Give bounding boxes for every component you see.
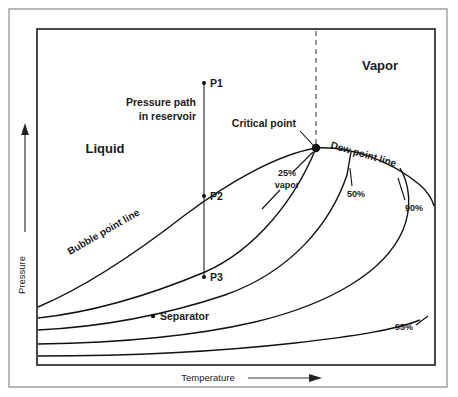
arrow-up-icon: [21, 123, 29, 135]
quality-label-90: 90%: [405, 203, 423, 213]
quality-90-leader: [398, 178, 405, 200]
region-label-vapor: Vapor: [362, 58, 398, 73]
region-label-liquid: Liquid: [86, 141, 125, 156]
phase-diagram-canvas: Liquid Vapor Pressure path in reservoir …: [0, 0, 458, 397]
dew-point-line-label: Dew point line: [329, 139, 398, 168]
critical-point-leader: [300, 131, 313, 145]
p3-marker: [202, 275, 206, 279]
quality-50-leader: [350, 168, 352, 186]
pressure-path-label-line2: in reservoir: [139, 110, 196, 122]
point-label-p3: P3: [210, 271, 223, 283]
point-label-p1: P1: [210, 77, 223, 89]
pressure-path-label-line1: Pressure path: [126, 96, 196, 108]
phase-diagram-figure: Liquid Vapor Pressure path in reservoir …: [0, 0, 458, 397]
critical-point-label: Critical point: [232, 117, 297, 129]
plot-area-border: [37, 29, 435, 365]
critical-point-marker: [312, 144, 320, 152]
x-axis-label: Temperature: [181, 372, 234, 383]
bubble-point-line-label: Bubble point line: [66, 206, 142, 256]
separator-marker: [151, 314, 155, 318]
quality-label-25: 25%: [278, 168, 296, 178]
quality-curve-25: [38, 148, 316, 318]
y-axis-label: Pressure: [16, 256, 27, 294]
quality-label-50: 50%: [347, 189, 365, 199]
p2-marker: [202, 194, 206, 198]
quality-label-25-sub: vapor: [275, 180, 300, 190]
point-label-p2: P2: [210, 190, 223, 202]
quality-25-leader-lower: [262, 190, 280, 209]
p1-marker: [202, 81, 206, 85]
separator-label: Separator: [160, 310, 209, 322]
quality-label-95: 95%: [395, 322, 413, 332]
arrow-right-icon: [309, 374, 322, 382]
